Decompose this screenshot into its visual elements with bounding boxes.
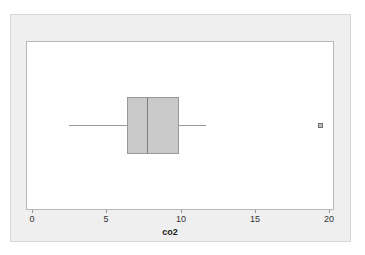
x-tick-label-20: 20 [319,214,339,224]
lower-whisker [69,125,127,126]
x-tick-5 [106,210,107,213]
x-tick-15 [255,210,256,213]
x-tick-0 [32,210,33,213]
x-tick-label-15: 15 [245,214,265,224]
x-tick-20 [329,210,330,213]
median-line [147,97,148,154]
x-tick-label-10: 10 [171,214,191,224]
outlier-point [318,123,323,128]
x-axis-label: co2 [150,227,190,237]
x-tick-label-5: 5 [96,214,116,224]
x-tick-label-0: 0 [22,214,42,224]
x-tick-10 [181,210,182,213]
upper-whisker [179,125,206,126]
iqr-box [127,97,179,154]
